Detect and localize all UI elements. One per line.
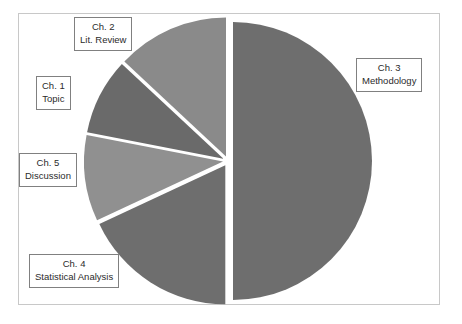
pie-label-ch2-chapter: Ch. 2 <box>80 21 126 34</box>
pie-label-ch1: Ch. 1 Topic <box>36 76 71 110</box>
pie-label-ch4-name: Statistical Analysis <box>35 271 113 284</box>
pie-label-ch4-chapter: Ch. 4 <box>35 258 113 271</box>
pie-slices <box>84 17 372 304</box>
pie-label-ch3-name: Methodology <box>362 75 416 88</box>
pie-label-ch3: Ch. 3 Methodology <box>356 58 422 92</box>
pie-label-ch1-name: Topic <box>42 93 65 106</box>
pie-label-ch2-name: Lit. Review <box>80 34 126 47</box>
pie-label-ch5-chapter: Ch. 5 <box>25 157 71 170</box>
pie-label-ch4: Ch. 4 Statistical Analysis <box>29 254 119 288</box>
pie-label-ch1-chapter: Ch. 1 <box>42 80 65 93</box>
pie-slice-ch3[interactable] <box>233 22 372 300</box>
pie-label-ch2: Ch. 2 Lit. Review <box>74 17 132 51</box>
pie-label-ch3-chapter: Ch. 3 <box>362 62 416 75</box>
pie-label-ch5: Ch. 5 Discussion <box>19 153 77 187</box>
pie-label-ch5-name: Discussion <box>25 170 71 183</box>
